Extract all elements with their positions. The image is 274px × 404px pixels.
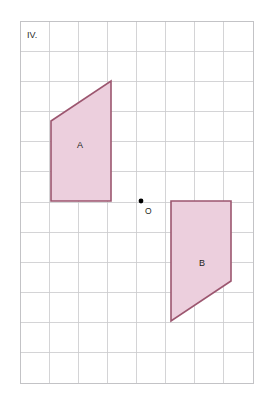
shape-label-b: B <box>199 258 205 268</box>
center-point-dot <box>139 199 144 204</box>
geometry-figure: AB O IV. <box>0 0 274 404</box>
center-point-label: O <box>145 206 152 216</box>
figure-canvas: AB O IV. <box>0 0 274 404</box>
shape-label-a: A <box>77 140 83 150</box>
figure-label: IV. <box>27 30 37 40</box>
center-point-layer: O <box>139 199 152 216</box>
